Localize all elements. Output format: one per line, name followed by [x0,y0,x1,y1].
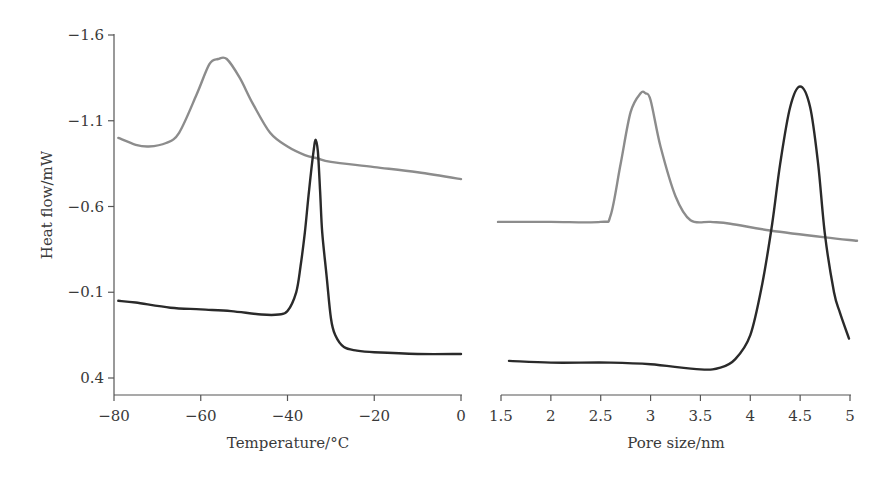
y-tick-label: 0.4 [80,369,104,387]
y-axis-title: Heat flow/mW [38,150,56,259]
x-tick-label: 3.5 [688,407,712,425]
right-black-curve [509,87,849,370]
right-x-ticks: 1.522.533.544.55 [489,395,855,425]
x-tick-label: 4 [746,407,756,425]
x-tick-label: 1.5 [489,407,513,425]
x-tick-label: 0 [456,407,466,425]
x-tick-label: −40 [272,407,304,425]
right-panel: 1.522.533.544.55 Pore size/nm [489,87,857,453]
x-tick-label: 5 [845,407,855,425]
y-tick-label: −0.6 [68,198,104,216]
y-tick-label: −1.6 [68,26,104,44]
x-tick-label: −20 [358,407,390,425]
x-tick-label: −60 [185,407,217,425]
left-y-ticks: −1.6−1.1−0.6−0.10.4 [68,26,114,387]
x-tick-label: −80 [98,407,130,425]
x-tick-label: 4.5 [788,407,812,425]
y-tick-label: −1.1 [68,112,104,130]
left-gray-curve [118,57,461,179]
left-panel: −1.6−1.1−0.6−0.10.4 −80−60−40−200 Temper… [68,26,466,452]
right-gray-curve [498,92,857,241]
right-x-axis-title: Pore size/nm [627,434,725,452]
x-tick-label: 2 [546,407,556,425]
x-tick-label: 3 [646,407,656,425]
dsc-pore-size-chart: Heat flow/mW −1.6−1.1−0.6−0.10.4 −80−60−… [0,0,894,477]
left-x-ticks: −80−60−40−200 [98,395,466,425]
y-tick-label: −0.1 [68,283,104,301]
x-tick-label: 2.5 [589,407,613,425]
left-x-axis-title: Temperature/°C [227,434,349,452]
